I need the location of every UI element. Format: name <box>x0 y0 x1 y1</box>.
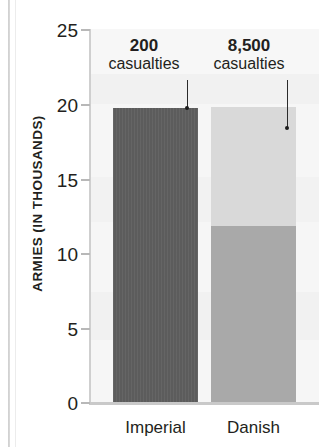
y-axis-tick <box>81 179 90 181</box>
annotation-imperial: 200 casualties <box>96 36 192 73</box>
annotation-imperial-leader-line <box>187 80 188 108</box>
y-axis-title: ARMIES (IN THOUSANDS) <box>30 79 45 329</box>
y-axis-tick-label: 10 <box>44 245 78 264</box>
annotation-imperial-label: casualties <box>96 55 192 73</box>
y-axis-tick-label: 25 <box>44 21 78 40</box>
bar-danish-segment-upper <box>211 107 296 226</box>
y-axis-tick <box>81 253 90 255</box>
annotation-danish: 8,500 casualties <box>196 36 302 73</box>
y-axis-tick <box>81 104 90 106</box>
y-axis-tick-label: 0 <box>44 394 78 413</box>
y-axis-tick-label: 20 <box>44 96 78 115</box>
bar-danish <box>211 107 296 402</box>
x-axis-label-danish: Danish <box>211 418 296 438</box>
x-axis-label-imperial: Imperial <box>113 418 198 438</box>
background-band <box>89 74 319 104</box>
plot-area <box>89 29 319 402</box>
x-axis-line <box>89 402 319 405</box>
annotation-danish-leader-line <box>287 80 288 128</box>
annotation-danish-leader-dot <box>285 126 289 130</box>
y-axis-tick <box>81 29 90 31</box>
bar-imperial <box>113 108 198 402</box>
annotation-imperial-value: 200 <box>96 36 192 55</box>
y-axis-tick-label: 5 <box>44 320 78 339</box>
y-axis-line <box>89 29 91 404</box>
annotation-imperial-leader-dot <box>185 106 189 110</box>
annotation-danish-value: 8,500 <box>196 36 302 55</box>
y-axis-tick <box>81 328 90 330</box>
annotation-danish-label: casualties <box>196 55 302 73</box>
bar-danish-segment-lower <box>211 226 296 402</box>
bar-chart: 25 20 15 10 5 0 ARMIES (IN THOUSANDS) 20… <box>0 0 319 447</box>
y-axis-tick-label: 15 <box>44 171 78 190</box>
y-axis-tick <box>81 402 90 404</box>
